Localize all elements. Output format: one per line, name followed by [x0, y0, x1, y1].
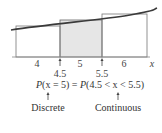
tick-label-4: 4: [35, 59, 40, 69]
tick-label-5: 5: [78, 59, 83, 69]
shaded-bar-5: [60, 20, 102, 57]
bar-4: [16, 26, 60, 57]
arrow-up-icon: [117, 92, 120, 100]
caption-discrete: Discrete: [31, 103, 64, 113]
probability-equation: P(x = 5) = P(4.5 < x < 5.5): [36, 80, 144, 90]
arrow-up-icon: [47, 92, 50, 100]
arrow-up-icon: [59, 58, 62, 66]
caption-continuous: Continuous: [95, 103, 141, 113]
eq-lhs-arg: (x = 5): [42, 79, 69, 90]
arrow-up-icon: [101, 58, 104, 66]
tick-label-6: 6: [122, 59, 127, 69]
bar-6: [102, 14, 147, 57]
boundary-label-4-5: 4.5: [54, 69, 67, 79]
eq-equals: =: [69, 79, 80, 90]
boundary-label-5-5: 5.5: [96, 69, 109, 79]
axis-variable-label: x: [150, 59, 154, 69]
eq-rhs-arg: (4.5 < x < 5.5): [86, 79, 144, 90]
